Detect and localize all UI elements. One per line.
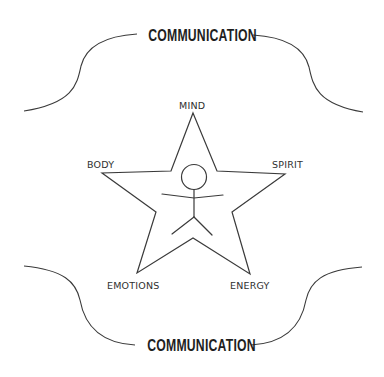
- bottom-heading-communication: COMMUNICATION: [147, 337, 241, 354]
- bottom-right-bracket-curve: [251, 267, 362, 345]
- star-label-mind: MIND: [179, 101, 205, 111]
- star-label-energy: ENERGY: [230, 281, 270, 291]
- top-heading-communication: COMMUNICATION: [148, 27, 242, 44]
- diagram-canvas: [0, 0, 384, 377]
- bottom-left-bracket-curve: [24, 266, 135, 345]
- top-left-bracket-curve: [24, 34, 137, 111]
- star-label-emotions: EMOTIONS: [107, 281, 160, 291]
- star-label-spirit: SPIRIT: [272, 160, 303, 170]
- star-label-body: BODY: [87, 160, 114, 170]
- top-right-bracket-curve: [253, 35, 363, 112]
- stick-figure-icon: [162, 165, 223, 236]
